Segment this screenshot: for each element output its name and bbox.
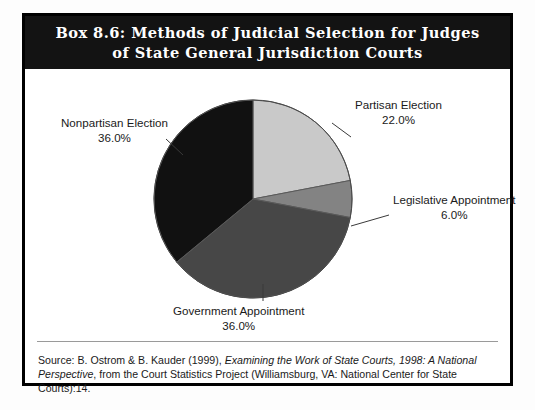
pie-label-legislative-appointment: Legislative Appointment 6.0% [393, 193, 515, 222]
pie-label-nonpartisan-election-name: Nonpartisan Election [61, 116, 168, 131]
box-title-line-2: of State General Jurisdiction Courts [112, 43, 422, 63]
pie-label-legislative-appointment-value: 6.0% [393, 208, 515, 223]
footer-divider [37, 341, 498, 342]
source-note: Source: B. Ostrom & B. Kauder (1999), Ex… [38, 353, 497, 396]
pie-label-partisan-election: Partisan Election 22.0% [355, 98, 442, 127]
pie-label-government-appointment: Government Appointment 36.0% [173, 304, 304, 333]
pie-chart-area: Nonpartisan Election 36.0% Partisan Elec… [25, 69, 510, 383]
pie-label-nonpartisan-election: Nonpartisan Election 36.0% [61, 116, 168, 145]
page-canvas: Box 8.6: Methods of Judicial Selection f… [0, 0, 535, 410]
pie-label-government-appointment-name: Government Appointment [173, 304, 304, 319]
pie-label-nonpartisan-election-value: 36.0% [61, 131, 168, 146]
pie-label-partisan-election-name: Partisan Election [355, 98, 442, 113]
source-note-suffix: , from the Court Statistics Project (Wil… [38, 368, 457, 394]
source-note-prefix: Source: B. Ostrom & B. Kauder (1999), [38, 354, 225, 366]
leader-line-legislative [351, 215, 389, 226]
leader-line-partisan [332, 123, 351, 137]
box-title-line-1: Box 8.6: Methods of Judicial Selection f… [55, 23, 479, 43]
pie-label-government-appointment-value: 36.0% [173, 319, 304, 334]
box-frame: Box 8.6: Methods of Judicial Selection f… [22, 13, 513, 386]
box-title-band: Box 8.6: Methods of Judicial Selection f… [25, 16, 510, 69]
pie-label-legislative-appointment-name: Legislative Appointment [393, 193, 515, 208]
pie-label-partisan-election-value: 22.0% [355, 113, 442, 128]
